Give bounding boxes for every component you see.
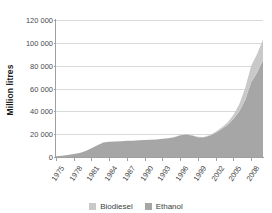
x-tick-mark (251, 157, 252, 161)
area-series-group (56, 20, 263, 157)
y-tick-label: 80 000 (5, 61, 53, 70)
x-tick-label: 1987 (120, 164, 137, 183)
x-tick-mark (162, 157, 163, 161)
legend-label: Biodiesel (100, 202, 132, 211)
y-tick-label: 20 000 (5, 130, 53, 139)
x-tick-mark (216, 157, 217, 161)
x-tick-label: 1990 (138, 164, 155, 183)
x-tick-label: 1999 (191, 164, 208, 183)
x-tick-mark (91, 157, 92, 161)
x-tick-mark (127, 157, 128, 161)
x-tick-mark (233, 157, 234, 161)
y-tick-label: 100 000 (5, 38, 53, 47)
y-tick-label: 60 000 (5, 84, 53, 93)
x-tick-label: 1978 (67, 164, 84, 183)
y-tick-label: 40 000 (5, 107, 53, 116)
legend-swatch-icon (145, 203, 152, 210)
x-tick-label: 2005 (227, 164, 244, 183)
x-tick-mark (74, 157, 75, 161)
legend-item-biodiesel[interactable]: Biodiesel (89, 202, 132, 211)
x-tick-label: 2002 (209, 164, 226, 183)
y-axis-line (55, 19, 56, 158)
x-tick-label: 1975 (49, 164, 66, 183)
x-tick-label: 1984 (103, 164, 120, 183)
x-tick-label: 1993 (156, 164, 173, 183)
x-tick-mark (109, 157, 110, 161)
area-series-ethanol (56, 60, 263, 157)
x-tick-label: 1981 (85, 164, 102, 183)
legend-swatch-icon (89, 203, 96, 210)
x-tick-mark (198, 157, 199, 161)
y-tick-label: 120 000 (5, 16, 53, 25)
x-tick-label: 2008 (245, 164, 262, 183)
legend-item-ethanol[interactable]: Ethanol (145, 202, 183, 211)
legend-label: Ethanol (156, 202, 183, 211)
chart-container: Million litres 120 000100 00080 00060 00… (0, 0, 272, 213)
plot-area (56, 20, 263, 157)
chart-legend: BiodieselEthanol (0, 202, 272, 211)
x-tick-mark (145, 157, 146, 161)
x-tick-label: 1996 (174, 164, 191, 183)
x-tick-mark (180, 157, 181, 161)
x-tick-mark (56, 157, 57, 161)
